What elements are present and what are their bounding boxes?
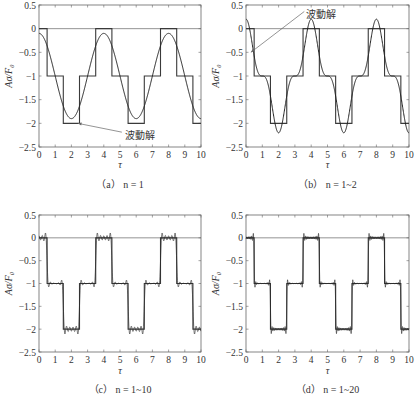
x-tick-label: 4 (309, 355, 314, 365)
y-tick-label: −1 (233, 72, 243, 82)
panel-c: 0123456789100.50−0.5−1−1.5−2−2.5Aσ/F₀τ（c… (3, 211, 206, 396)
x-tick-label: 0 (244, 355, 249, 365)
annotation-arrow (251, 11, 304, 52)
y-tick-label: 0.5 (231, 1, 243, 11)
y-tick-label: −2 (233, 325, 243, 335)
y-tick-label: −2.5 (226, 143, 243, 153)
y-tick-label: 0 (238, 233, 243, 243)
panel-caption: （c） n = 1~10 (89, 384, 152, 395)
x-tick-label: 3 (293, 150, 298, 160)
x-tick-label: 8 (374, 150, 379, 160)
y-tick-label: 0.5 (231, 211, 243, 221)
x-tick-label: 9 (390, 150, 395, 160)
y-tick-label: −2 (26, 325, 36, 335)
x-tick-label: 6 (341, 150, 346, 160)
x-tick-label: 1 (260, 150, 265, 160)
x-tick-label: 2 (276, 150, 281, 160)
x-tick-label: 7 (150, 355, 155, 365)
y-tick-label: −1.5 (226, 302, 243, 312)
x-tick-label: 6 (134, 150, 139, 160)
x-tick-label: 0 (37, 355, 42, 365)
panel-d: 0123456789100.50−0.5−1−1.5−2−2.5Aσ/F₀τ（d… (210, 211, 414, 396)
x-axis-label: τ (326, 365, 330, 376)
y-tick-label: −1.5 (19, 302, 36, 312)
x-tick-label: 6 (341, 355, 346, 365)
x-tick-label: 10 (404, 150, 414, 160)
x-tick-label: 9 (182, 150, 187, 160)
y-tick-label: −1 (233, 279, 243, 289)
x-axis-label: τ (118, 159, 122, 170)
x-tick-label: 8 (374, 355, 379, 365)
annotation-arrow (78, 123, 122, 132)
x-tick-label: 4 (309, 150, 314, 160)
x-tick-label: 0 (244, 150, 249, 160)
y-tick-label: 0 (31, 233, 36, 243)
annotation-label: 波動解 (125, 129, 155, 141)
x-tick-label: 6 (134, 355, 139, 365)
x-tick-label: 5 (118, 355, 123, 365)
y-tick-label: −2.5 (19, 143, 36, 153)
x-tick-label: 4 (101, 150, 106, 160)
y-tick-label: −1.5 (19, 95, 36, 105)
y-axis-label: Aσ/F₀ (210, 64, 221, 89)
x-tick-label: 8 (166, 355, 171, 365)
panel-b: 0123456789100.50−0.5−1−1.5−2−2.5Aσ/F₀τ（b… (210, 1, 414, 191)
y-tick-label: −1.5 (226, 95, 243, 105)
x-tick-label: 2 (69, 355, 74, 365)
panel-caption: （d） n = 1~20 (296, 384, 360, 395)
x-tick-label: 10 (196, 355, 206, 365)
x-tick-label: 2 (69, 150, 74, 160)
x-tick-label: 1 (53, 355, 58, 365)
x-axis-label: τ (326, 159, 330, 170)
x-tick-label: 9 (182, 355, 187, 365)
y-tick-label: −0.5 (226, 256, 243, 266)
x-tick-label: 4 (101, 355, 106, 365)
y-tick-label: −2 (26, 119, 36, 129)
x-tick-label: 1 (53, 150, 58, 160)
y-tick-label: −2 (233, 119, 243, 129)
x-tick-label: 1 (260, 355, 265, 365)
x-tick-label: 8 (166, 150, 171, 160)
x-tick-label: 2 (276, 355, 281, 365)
x-tick-label: 7 (358, 150, 363, 160)
y-axis-label: Aσ/F₀ (3, 271, 14, 296)
x-tick-label: 10 (196, 150, 206, 160)
y-tick-label: −2.5 (19, 348, 36, 358)
figure: 0123456789100.50−0.5−1−1.5−2−2.5Aσ/F₀τ（a… (0, 0, 418, 405)
y-tick-label: −0.5 (19, 48, 36, 58)
x-axis-label: τ (118, 365, 122, 376)
y-tick-label: −0.5 (226, 48, 243, 58)
panel-caption: （a） n = 1 (96, 179, 144, 190)
x-tick-label: 5 (325, 355, 330, 365)
annotation-label: 波動解 (306, 8, 336, 20)
y-tick-label: −2.5 (226, 348, 243, 358)
x-tick-label: 10 (404, 355, 414, 365)
y-tick-label: 0 (238, 24, 243, 34)
x-tick-label: 7 (358, 355, 363, 365)
x-tick-label: 7 (150, 150, 155, 160)
x-tick-label: 0 (37, 150, 42, 160)
panel-caption: （b） n = 1~2 (298, 179, 357, 190)
x-tick-label: 9 (390, 355, 395, 365)
x-tick-label: 3 (85, 150, 90, 160)
y-tick-label: −0.5 (19, 256, 36, 266)
y-axis-label: Aσ/F₀ (210, 271, 221, 296)
y-tick-label: −1 (26, 72, 36, 82)
y-tick-label: 0 (31, 24, 36, 34)
y-axis-label: Aσ/F₀ (3, 64, 14, 89)
y-tick-label: −1 (26, 279, 36, 289)
x-tick-label: 3 (293, 355, 298, 365)
y-tick-label: 0.5 (24, 211, 36, 221)
y-tick-label: 0.5 (24, 1, 36, 11)
x-tick-label: 3 (85, 355, 90, 365)
panel-a: 0123456789100.50−0.5−1−1.5−2−2.5Aσ/F₀τ（a… (3, 1, 206, 191)
